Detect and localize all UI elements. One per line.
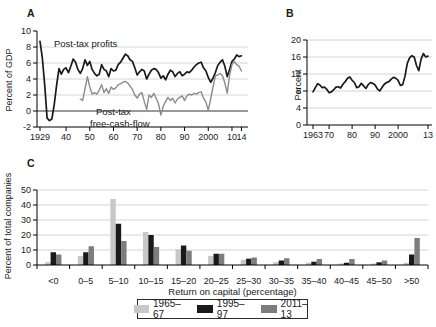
bar-2011-13	[56, 255, 61, 266]
bar-1965-67	[78, 256, 83, 265]
bar-2011-13	[154, 247, 159, 265]
x-tick-label: 90	[180, 132, 190, 142]
bar-1995-97	[409, 255, 414, 266]
legend-item: 2011–13	[261, 298, 311, 320]
category-label: 15–20	[171, 276, 196, 286]
y-tick-label: 6	[26, 58, 31, 68]
panel-c-y-axis-title: Percent of total companies	[3, 173, 13, 280]
bar-2011-13	[382, 261, 387, 266]
category-label: 0–5	[78, 276, 93, 286]
panel-a-y-axis-title: Percent of GDP	[4, 48, 14, 111]
bar-1965-67	[176, 249, 181, 265]
y-tick-label: 10	[21, 26, 31, 36]
category-label: 30–35	[269, 276, 294, 286]
fcf-line-annotation-line1: Post-tax	[96, 107, 131, 117]
y-tick-label: 20	[21, 230, 31, 240]
category-label: <0	[48, 276, 58, 286]
legend-item: 1965–67	[134, 298, 185, 320]
bar-1995-97	[148, 235, 153, 265]
y-tick-label: 4	[296, 103, 301, 113]
bar-2011-13	[317, 259, 322, 265]
bar-1965-67	[110, 199, 115, 265]
x-tick-label: 60	[108, 132, 118, 142]
x-tick-label: 90	[370, 130, 380, 140]
bar-2011-13	[349, 259, 354, 265]
y-tick-label: 20	[291, 35, 301, 45]
profits-line-annotation: Post-tax profits	[54, 39, 117, 49]
category-label: 20–25	[204, 276, 229, 286]
category-label: 5–10	[108, 276, 128, 286]
x-tick-label: 1929	[30, 132, 50, 142]
bar-1995-97	[83, 252, 88, 265]
bar-1965-67	[143, 232, 148, 265]
figure: -202468101929405060708090200010140481216…	[0, 0, 436, 327]
legend-label: 1965–67	[153, 298, 184, 320]
y-tick-label: 0	[296, 120, 301, 130]
category-label: >50	[404, 276, 419, 286]
bar-1995-97	[51, 252, 56, 265]
y-tick-label: 16	[291, 52, 301, 62]
bar-2011-13	[186, 251, 191, 265]
y-tick-label: 0	[26, 106, 31, 116]
y-tick-label: 30	[21, 215, 31, 225]
x-tick-label: 80	[156, 132, 166, 142]
bar-2011-13	[121, 241, 126, 265]
bar-2011-13	[251, 258, 256, 266]
x-tick-label: 50	[85, 132, 95, 142]
panel-b-label: B	[286, 8, 294, 19]
legend: 1965–67 1995–97 2011–13	[137, 299, 308, 319]
y-tick-label: 4	[26, 74, 31, 84]
series-line-percent	[313, 54, 428, 93]
bar-1965-67	[208, 256, 213, 265]
category-label: 10–15	[139, 276, 164, 286]
bar-1995-97	[279, 261, 284, 266]
y-tick-label: 50	[21, 185, 31, 195]
legend-swatch-1965-67	[134, 305, 149, 313]
panel-c-x-axis-title: Return on capital (percentage)	[37, 286, 428, 297]
bar-1995-97	[181, 246, 186, 266]
y-tick-label: 40	[21, 200, 31, 210]
y-tick-label: 2	[26, 90, 31, 100]
series-line-post-tax-profits	[40, 41, 241, 120]
bar-2011-13	[89, 246, 94, 265]
x-tick-label: 1963	[303, 130, 323, 140]
fcf-line-annotation-line2: free-cash-flow	[90, 119, 150, 129]
panel-b-y-axis-title: Percent	[293, 69, 303, 100]
bar-1995-97	[246, 259, 251, 265]
legend-label: 1995–97	[217, 298, 248, 320]
bar-2011-13	[284, 258, 289, 265]
bar-2011-13	[414, 238, 419, 265]
category-label: 35–40	[301, 276, 326, 286]
legend-swatch-2011-13	[261, 305, 276, 313]
x-tick-label: 70	[132, 132, 142, 142]
legend-item: 1995–97	[197, 298, 248, 320]
x-tick-label: 40	[61, 132, 71, 142]
panel-a-label: A	[27, 8, 35, 19]
bar-1965-67	[241, 260, 246, 265]
y-tick-label: 8	[26, 42, 31, 52]
x-tick-label: 80	[347, 130, 357, 140]
y-tick-label: 10	[21, 245, 31, 255]
category-label: 45–50	[367, 276, 392, 286]
y-tick-label: -2	[23, 122, 31, 132]
y-tick-label: 0	[26, 260, 31, 270]
category-label: 25–30	[236, 276, 261, 286]
category-label: 40–45	[334, 276, 359, 286]
x-tick-label: 13	[423, 130, 433, 140]
legend-label: 2011–13	[281, 298, 312, 320]
legend-swatch-1995-97	[197, 305, 212, 313]
x-tick-label: 70	[324, 130, 334, 140]
panel-c-label: C	[27, 158, 35, 169]
charts-svg: -202468101929405060708090200010140481216…	[0, 0, 436, 327]
bar-1995-97	[116, 224, 121, 265]
x-tick-label: 2000	[388, 130, 408, 140]
bar-1995-97	[214, 254, 219, 265]
x-tick-label: 2000	[198, 132, 218, 142]
bar-2011-13	[219, 254, 224, 265]
x-tick-label: 14	[236, 132, 246, 142]
